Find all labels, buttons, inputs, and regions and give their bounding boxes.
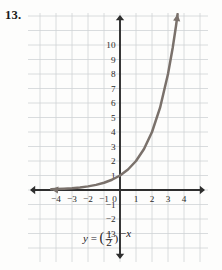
axis-arrowhead bbox=[30, 186, 35, 194]
y-tick-label: 2 bbox=[111, 156, 116, 166]
equation-exponent: −x bbox=[120, 227, 131, 239]
axis-arrowhead bbox=[200, 186, 205, 194]
y-tick-label: 8 bbox=[111, 69, 116, 79]
equation-text: y = ( bbox=[82, 230, 105, 246]
curve-arrowhead bbox=[51, 186, 59, 194]
y-tick-label: 4 bbox=[111, 127, 116, 137]
x-tick-label: 1 bbox=[134, 194, 139, 204]
y-tick-label: 3 bbox=[111, 142, 116, 152]
function-curve bbox=[51, 14, 181, 194]
worksheet-page: 13. −4−3−2−101234−3−2−112345678910 y = (… bbox=[0, 0, 222, 270]
tick-labels: −4−3−2−101234−3−2−112345678910 bbox=[51, 40, 187, 239]
y-tick-label: −1 bbox=[106, 200, 116, 210]
y-tick-label: −2 bbox=[106, 214, 116, 224]
y-tick-label: 9 bbox=[111, 55, 116, 65]
y-tick-label: 7 bbox=[111, 84, 116, 94]
axis-arrowhead bbox=[116, 254, 124, 259]
graph-plot: −4−3−2−101234−3−2−112345678910 y = (12)−… bbox=[28, 13, 208, 262]
equation-close-paren: ) bbox=[115, 232, 119, 245]
y-tick-label: 10 bbox=[106, 40, 116, 50]
y-tick-label: 6 bbox=[111, 98, 116, 108]
x-tick-label: −2 bbox=[83, 194, 93, 204]
problem-number: 13. bbox=[5, 8, 21, 23]
x-tick-label: 3 bbox=[166, 194, 171, 204]
equation-label: y = (12)−x bbox=[82, 227, 131, 248]
curve-arrowhead bbox=[173, 14, 181, 22]
y-tick-label: 5 bbox=[111, 113, 116, 123]
grid-lines bbox=[28, 13, 208, 262]
x-tick-label: −3 bbox=[67, 194, 77, 204]
x-tick-label: 2 bbox=[150, 194, 155, 204]
coordinate-graph: −4−3−2−101234−3−2−112345678910 y = (12)−… bbox=[28, 13, 208, 262]
x-tick-label: −4 bbox=[51, 194, 61, 204]
fraction-denominator: 2 bbox=[106, 236, 112, 248]
x-tick-label: 4 bbox=[182, 194, 187, 204]
